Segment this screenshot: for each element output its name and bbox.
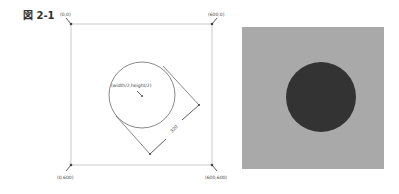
circle-outline — [109, 62, 175, 128]
corner-label-top-left: (0,0) — [60, 12, 71, 17]
tangent-line-upper — [163, 66, 199, 105]
filled-circle — [286, 62, 356, 132]
center-label: (width/2,height/2) — [111, 83, 152, 88]
corner-arrows — [66, 18, 217, 171]
corner-label-bottom-right: (600,600) — [205, 175, 227, 180]
canvas-frame — [71, 24, 212, 165]
corner-label-top-right: (600,0) — [208, 12, 225, 17]
corner-label-bottom-left: (0,600) — [57, 175, 74, 180]
rendered-output — [242, 27, 384, 169]
center-marker — [137, 91, 143, 97]
dimension-label: 320 — [169, 124, 179, 134]
canvas-diagram: (0,0) (600,0) (0,600) (600,600) (width/2… — [0, 0, 240, 194]
tangent-line-lower — [116, 116, 150, 154]
